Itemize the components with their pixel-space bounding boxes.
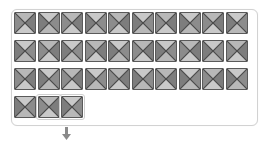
thumbnail-tile[interactable] <box>38 96 60 118</box>
thumbnail-tile[interactable] <box>14 68 36 90</box>
thumbnail-tile[interactable] <box>202 68 224 90</box>
thumbnail-tile[interactable] <box>108 40 130 62</box>
thumbnail-tile[interactable] <box>14 12 36 34</box>
thumbnail-tile[interactable] <box>132 12 154 34</box>
thumbnail-tile[interactable] <box>132 68 154 90</box>
thumbnail-tile[interactable] <box>179 40 201 62</box>
thumbnail-tile[interactable] <box>38 12 60 34</box>
thumbnail-tile[interactable] <box>202 12 224 34</box>
thumbnail-tile[interactable] <box>85 68 107 90</box>
thumbnail-tile[interactable] <box>38 40 60 62</box>
thumbnail-tile[interactable] <box>61 12 83 34</box>
thumbnail-tile[interactable] <box>14 96 36 118</box>
thumbnail-row <box>14 40 254 64</box>
thumbnail-tile[interactable] <box>226 40 248 62</box>
thumbnail-tile[interactable] <box>155 12 177 34</box>
thumbnail-tile[interactable] <box>61 96 83 118</box>
thumbnail-tile[interactable] <box>108 68 130 90</box>
thumbnail-row <box>14 12 254 36</box>
thumbnail-tile[interactable] <box>202 40 224 62</box>
thumbnail-tile[interactable] <box>14 40 36 62</box>
down-arrow-icon <box>62 127 71 141</box>
thumbnail-tile[interactable] <box>132 40 154 62</box>
thumbnail-tile[interactable] <box>179 12 201 34</box>
thumbnail-tile[interactable] <box>61 68 83 90</box>
thumbnail-tile[interactable] <box>226 68 248 90</box>
thumbnail-tile[interactable] <box>61 40 83 62</box>
thumbnail-tile[interactable] <box>226 12 248 34</box>
thumbnail-tile[interactable] <box>85 40 107 62</box>
thumbnail-tile[interactable] <box>155 68 177 90</box>
thumbnail-tile[interactable] <box>85 12 107 34</box>
thumbnail-tile[interactable] <box>155 40 177 62</box>
thumbnail-tile[interactable] <box>38 68 60 90</box>
thumbnail-row <box>14 96 254 120</box>
thumbnail-grid <box>14 12 254 124</box>
thumbnail-tile[interactable] <box>179 68 201 90</box>
thumbnail-row <box>14 68 254 92</box>
thumbnail-tile[interactable] <box>108 12 130 34</box>
